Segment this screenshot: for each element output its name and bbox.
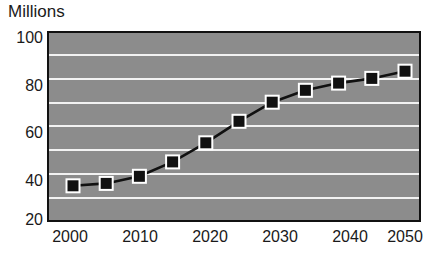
y-tick-label: 60 [1, 125, 43, 141]
data-point-marker [200, 137, 211, 148]
data-point-marker [234, 116, 245, 127]
x-tick-label: 2000 [52, 228, 88, 246]
data-point-marker [333, 78, 344, 89]
data-point-marker [400, 66, 411, 77]
data-point-marker [267, 97, 278, 108]
y-tick-label: 20 [1, 212, 43, 228]
x-tick-label: 2040 [332, 228, 368, 246]
plot-area [47, 31, 421, 222]
data-series [49, 33, 419, 220]
data-point-marker [300, 85, 311, 96]
data-point-marker [366, 73, 377, 84]
x-tick-label: 2050 [387, 228, 423, 246]
data-point-marker [167, 156, 178, 167]
chart-container: Millions 100 80 60 40 20 2000 2010 2020 … [0, 0, 429, 261]
data-point-marker [101, 178, 112, 189]
data-point-marker [68, 180, 79, 191]
y-axis-tick-labels: 100 80 60 40 20 [0, 0, 43, 261]
y-tick-label: 40 [1, 173, 43, 189]
y-tick-label: 80 [1, 78, 43, 94]
y-tick-label: 100 [1, 30, 43, 46]
x-tick-label: 2020 [192, 228, 228, 246]
x-tick-label: 2010 [122, 228, 158, 246]
data-point-marker [134, 171, 145, 182]
plot-inner [49, 33, 419, 220]
x-tick-label: 2030 [262, 228, 298, 246]
